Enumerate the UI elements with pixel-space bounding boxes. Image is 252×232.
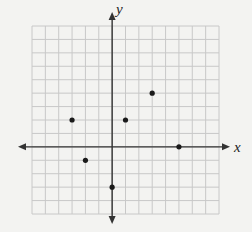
y-axis-arrow-up-icon — [109, 12, 116, 20]
coordinate-plane: x y — [0, 0, 252, 232]
x-axis-arrow-left-icon — [18, 143, 26, 150]
data-point — [110, 185, 115, 190]
data-point — [83, 158, 88, 163]
data-point — [123, 117, 128, 122]
y-axis-arrow-down-icon — [109, 216, 116, 224]
y-axis-label: y — [114, 1, 123, 17]
x-axis-arrow-right-icon — [222, 143, 230, 150]
axes: x y — [18, 1, 241, 224]
data-point — [69, 117, 74, 122]
x-axis-label: x — [233, 139, 241, 155]
data-point — [150, 91, 155, 96]
data-point — [176, 144, 181, 149]
